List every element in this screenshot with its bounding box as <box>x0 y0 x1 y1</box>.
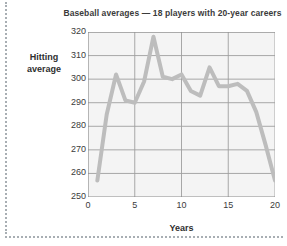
x-axis-tick-0: 0 <box>78 200 98 210</box>
chart-figure: Baseball averages — 18 players with 20-y… <box>0 0 287 246</box>
y-axis-tick-320: 320 <box>60 26 86 36</box>
x-axis-tick-10: 10 <box>172 200 192 210</box>
x-axis-tick-15: 15 <box>218 200 238 210</box>
chart-title: Baseball averages — 18 players with 20-y… <box>60 8 285 19</box>
y-axis-tick-310: 310 <box>60 50 86 60</box>
y-axis-tick-270: 270 <box>60 144 86 154</box>
line-chart-svg <box>88 32 275 197</box>
x-axis-tick-5: 5 <box>125 200 145 210</box>
decorative-dotted-border-left <box>5 2 7 234</box>
y-axis-tick-260: 260 <box>60 167 86 177</box>
x-axis-label: Years <box>88 223 275 233</box>
decorative-dotted-border-bottom <box>5 236 283 238</box>
y-axis-tick-280: 280 <box>60 120 86 130</box>
plot-area <box>88 32 275 197</box>
x-axis-tick-labels: 05101520 <box>88 200 275 214</box>
x-axis-tick-20: 20 <box>265 200 285 210</box>
y-axis-tick-290: 290 <box>60 97 86 107</box>
y-axis-tick-labels: 250260270280290300310320 <box>58 32 86 197</box>
y-axis-tick-300: 300 <box>60 73 86 83</box>
